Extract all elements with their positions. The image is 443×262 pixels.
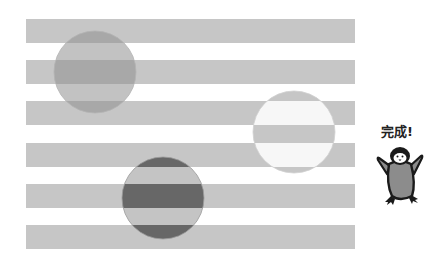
penguin-icon — [376, 144, 424, 208]
completion-caption: 完成! — [381, 121, 413, 140]
illusion-canvas — [0, 0, 443, 262]
circle-light — [240, 80, 360, 190]
